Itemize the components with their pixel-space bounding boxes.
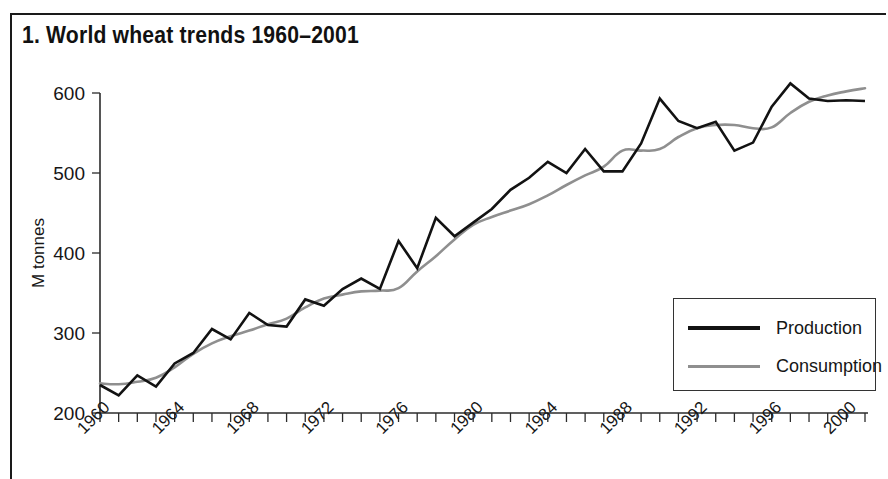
- y-tick-label: 500: [53, 163, 85, 184]
- consumption-line-swatch-icon: [688, 365, 760, 368]
- x-tick-label: 1992: [670, 398, 710, 438]
- x-tick-label: 1980: [447, 398, 487, 438]
- legend-label-consumption: Consumption: [776, 356, 882, 377]
- chart-legend: Production Consumption: [673, 298, 876, 391]
- x-tick-label: 1996: [745, 398, 785, 438]
- x-tick-label: 2000: [820, 398, 860, 438]
- figure-container: 1. World wheat trends 1960–2001 20030040…: [0, 0, 888, 479]
- x-tick-label-group: 1960196419681972197619801984198819921996…: [73, 398, 860, 438]
- y-tick-label: 300: [53, 323, 85, 344]
- legend-item-consumption: Consumption: [674, 351, 875, 381]
- y-tick-group: 200300400500600: [53, 83, 100, 424]
- x-tick-label: 1984: [521, 398, 561, 438]
- production-line-swatch-icon: [688, 326, 760, 330]
- chart-plot: 200300400500600 196019641968197219761980…: [0, 0, 888, 479]
- y-tick-label: 600: [53, 83, 85, 104]
- legend-item-production: Production: [674, 313, 875, 343]
- x-tick-label: 1968: [223, 398, 263, 438]
- legend-label-production: Production: [776, 318, 862, 339]
- y-axis-title: M tonnes: [29, 218, 48, 288]
- x-tick-label: 1964: [148, 398, 188, 438]
- y-axis-title-group: M tonnes: [29, 218, 48, 288]
- x-tick-label: 1976: [372, 398, 412, 438]
- x-tick-label: 1988: [596, 398, 636, 438]
- y-tick-label: 400: [53, 243, 85, 264]
- x-tick-label: 1972: [297, 398, 337, 438]
